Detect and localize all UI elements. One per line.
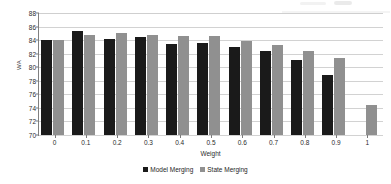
bar-state-merging (84, 35, 95, 135)
x-tick-label: 0.1 (81, 139, 90, 146)
legend-label: Model Merging (150, 166, 193, 173)
x-axis-title: Weight (38, 150, 383, 157)
x-tick-mark (55, 135, 56, 138)
bar-group: 0.2 (102, 13, 133, 135)
scan-artifact (334, 1, 352, 5)
bar-model-merging (229, 47, 240, 135)
bar-group: 0.1 (70, 13, 101, 135)
bar-model-merging (197, 43, 208, 135)
bar-model-merging (322, 75, 333, 135)
x-tick-mark (242, 135, 243, 138)
bar-state-merging (178, 36, 189, 135)
x-tick-label: 0.4 (175, 139, 184, 146)
y-tick-label: 74 (29, 104, 36, 111)
bar-model-merging (291, 60, 302, 135)
y-axis-title: WA (16, 48, 22, 82)
x-tick-label: 0.7 (269, 139, 278, 146)
x-tick-label: 0.8 (300, 139, 309, 146)
x-tick-mark (305, 135, 306, 138)
bar-state-merging (53, 40, 64, 135)
y-tick-label: 88 (29, 10, 36, 17)
bar-group: 0.9 (320, 13, 351, 135)
x-tick-mark (367, 135, 368, 138)
y-tick-label: 84 (29, 37, 36, 44)
x-tick-label: 1 (366, 139, 370, 146)
x-tick-label: 0 (53, 139, 57, 146)
bar-group: 0.6 (227, 13, 258, 135)
bar-state-merging (116, 33, 127, 135)
bar-state-merging (303, 51, 314, 135)
bar-state-merging (334, 58, 345, 135)
bar-state-merging (272, 45, 283, 135)
bar-group: 1 (352, 13, 383, 135)
y-tick-label: 72 (29, 118, 36, 125)
bar-model-merging (104, 39, 115, 135)
chart-legend: Model MergingState Merging (0, 166, 391, 173)
bar-group: 0.4 (164, 13, 195, 135)
bar-group: 0.8 (289, 13, 320, 135)
x-tick-label: 0.2 (113, 139, 122, 146)
bar-model-merging (135, 37, 146, 135)
x-tick-label: 0.6 (238, 139, 247, 146)
x-tick-label: 0.9 (332, 139, 341, 146)
x-tick-label: 0.3 (144, 139, 153, 146)
x-tick-mark (148, 135, 149, 138)
legend-swatch-icon (200, 167, 205, 172)
y-tick-label: 70 (29, 132, 36, 139)
bar-state-merging (147, 35, 158, 135)
y-tick-label: 80 (29, 64, 36, 71)
legend-item: State Merging (200, 166, 247, 173)
x-tick-mark (117, 135, 118, 138)
x-tick-mark (86, 135, 87, 138)
legend-item: Model Merging (143, 166, 193, 173)
bar-group: 0.3 (133, 13, 164, 135)
x-tick-mark (336, 135, 337, 138)
bar-state-merging (366, 105, 377, 136)
y-tick-label: 76 (29, 91, 36, 98)
bar-model-merging (166, 44, 177, 136)
scan-artifact (300, 2, 326, 5)
y-tick-label: 78 (29, 77, 36, 84)
bar-series-layer: 00.10.20.30.40.50.60.70.80.91 (39, 13, 383, 135)
legend-swatch-icon (143, 167, 148, 172)
bar-chart: WA 88868482807876747270 00.10.20.30.40.5… (0, 0, 391, 184)
x-tick-mark (274, 135, 275, 138)
x-tick-mark (211, 135, 212, 138)
bar-model-merging (41, 40, 52, 135)
bar-group: 0.5 (195, 13, 226, 135)
x-tick-label: 0.5 (206, 139, 215, 146)
y-tick-label: 82 (29, 50, 36, 57)
legend-label: State Merging (207, 166, 247, 173)
bar-group: 0 (39, 13, 70, 135)
bar-state-merging (241, 41, 252, 135)
bar-model-merging (260, 51, 271, 135)
bar-state-merging (209, 36, 220, 135)
x-tick-mark (180, 135, 181, 138)
y-tick-label: 86 (29, 23, 36, 30)
bar-model-merging (72, 31, 83, 135)
bar-group: 0.7 (258, 13, 289, 135)
plot-area: 88868482807876747270 00.10.20.30.40.50.6… (38, 13, 383, 136)
